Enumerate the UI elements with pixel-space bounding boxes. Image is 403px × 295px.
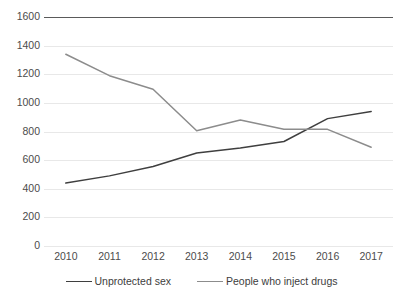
y-tick-label-200: 200 [2, 211, 40, 222]
x-tick-label-2012: 2012 [131, 250, 175, 262]
x-tick-label-2014: 2014 [218, 250, 262, 262]
series-line-unprotected-sex [66, 111, 371, 183]
x-tick-label-2011: 2011 [87, 250, 131, 262]
x-tick-label-2017: 2017 [349, 250, 393, 262]
legend-item-unprotected-sex[interactable]: Unprotected sex [66, 275, 171, 287]
series-layer [44, 17, 393, 246]
plot-area [44, 17, 393, 246]
x-tick-label-2010: 2010 [44, 250, 88, 262]
series-line-people-who-inject-drugs [66, 54, 371, 147]
y-tick-label-600: 600 [2, 154, 40, 165]
y-tick-label-0: 0 [2, 240, 40, 251]
legend-line-swatch-icon [66, 281, 92, 282]
y-tick-label-1600: 1600 [2, 11, 40, 22]
gridline-0 [44, 246, 393, 247]
x-tick-label-2016: 2016 [306, 250, 350, 262]
y-tick-label-1400: 1400 [2, 40, 40, 51]
y-tick-label-1000: 1000 [2, 97, 40, 108]
x-tick-label-2015: 2015 [262, 250, 306, 262]
y-tick-label-1200: 1200 [2, 68, 40, 79]
x-tick-label-2013: 2013 [175, 250, 219, 262]
y-tick-label-800: 800 [2, 126, 40, 137]
x-axis: 20102011201220132014201520162017 [44, 250, 393, 266]
legend-label: People who inject drugs [226, 275, 338, 287]
y-axis: 02004006008001000120014001600 [0, 0, 40, 295]
legend-item-people-who-inject-drugs[interactable]: People who inject drugs [197, 275, 338, 287]
legend-line-swatch-icon [197, 281, 223, 282]
chart-legend: Unprotected sexPeople who inject drugs [0, 272, 403, 290]
line-chart: 02004006008001000120014001600 2010201120… [0, 0, 403, 295]
y-tick-label-400: 400 [2, 183, 40, 194]
legend-label: Unprotected sex [95, 275, 171, 287]
